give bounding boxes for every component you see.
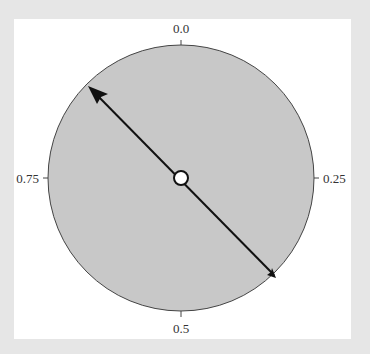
label-top: 0.0 xyxy=(173,21,189,36)
dial-figure: 0.0 0.25 0.5 0.75 xyxy=(0,0,370,354)
label-right: 0.25 xyxy=(323,171,346,186)
label-bottom: 0.5 xyxy=(173,321,189,336)
center-marker xyxy=(174,171,188,185)
label-left: 0.75 xyxy=(16,171,39,186)
